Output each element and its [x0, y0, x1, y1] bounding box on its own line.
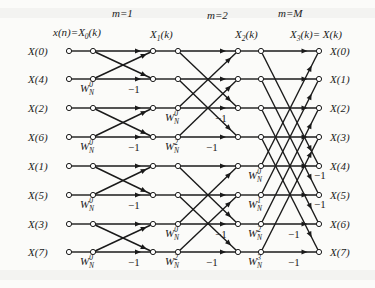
stage-label: m=M	[278, 7, 303, 19]
twiddle-factor: W3N	[248, 253, 263, 270]
output-label: X(7)	[329, 246, 350, 259]
arrow-icon	[220, 134, 226, 139]
node	[150, 163, 155, 168]
minus-one-label: −1	[206, 256, 218, 268]
twiddle-factor: W0N	[80, 253, 95, 270]
twiddle-factor: W0N	[80, 80, 95, 97]
minus-one-label: −1	[128, 199, 140, 211]
node	[66, 48, 71, 53]
column-label: X3(k)= X(k)	[289, 28, 342, 43]
arrow-icon	[220, 48, 226, 53]
arrow-icon	[135, 48, 141, 53]
node	[235, 163, 240, 168]
twiddle-factor: W0N	[80, 196, 95, 213]
node	[258, 76, 263, 81]
node	[258, 134, 263, 139]
node	[150, 134, 155, 139]
output-label: X(0)	[329, 45, 350, 58]
fft-butterfly-diagram: X(0)X(4)X(2)X(6)X(1)X(5)X(3)X(7)X(0)X(1)…	[0, 0, 375, 288]
node	[90, 105, 95, 110]
arrow-icon	[220, 192, 226, 197]
node	[90, 163, 95, 168]
arrow-icon	[302, 48, 308, 53]
twiddle-factor: W2N	[165, 253, 180, 270]
node	[316, 221, 321, 226]
input-label: X(1)	[27, 160, 48, 173]
node	[150, 48, 155, 53]
node	[150, 76, 155, 81]
minus-one-label: −1	[288, 228, 300, 240]
twiddle-factor: W1N	[248, 196, 263, 213]
input-label: X(5)	[27, 189, 48, 202]
node	[258, 48, 263, 53]
node	[66, 134, 71, 139]
arrow-icon	[135, 249, 141, 254]
input-label: X(7)	[27, 246, 48, 259]
arrow-icon	[135, 134, 141, 139]
input-label: X(6)	[27, 131, 48, 144]
input-label: X(3)	[27, 218, 48, 231]
minus-one-label: −1	[288, 256, 300, 268]
node	[235, 48, 240, 53]
node	[316, 76, 321, 81]
node	[150, 105, 155, 110]
output-label: X(1)	[329, 73, 350, 86]
minus-one-label: −1	[128, 83, 140, 95]
node	[316, 249, 321, 254]
output-label: X(5)	[329, 189, 350, 202]
node	[150, 221, 155, 226]
output-label: X(4)	[329, 160, 350, 173]
input-label: X(0)	[27, 45, 48, 58]
stage-label: m=1	[112, 7, 133, 19]
output-label: X(2)	[329, 102, 350, 115]
twiddle-factor: W2N	[165, 138, 180, 155]
arrow-icon	[220, 163, 226, 168]
arrow-icon	[302, 192, 308, 197]
node	[235, 221, 240, 226]
arrow-icon	[135, 105, 141, 110]
arrow-icon	[135, 221, 141, 226]
input-label: X(2)	[27, 102, 48, 115]
arrow-icon	[220, 105, 226, 110]
minus-one-label: −1	[128, 256, 140, 268]
node	[235, 192, 240, 197]
node	[235, 249, 240, 254]
node	[66, 192, 71, 197]
arrow-icon	[302, 134, 308, 139]
node	[150, 192, 155, 197]
node	[66, 105, 71, 110]
node	[316, 48, 321, 53]
node	[90, 221, 95, 226]
node	[175, 48, 180, 53]
node	[66, 249, 71, 254]
node	[316, 105, 321, 110]
arrow-icon	[135, 163, 141, 168]
twiddle-factor: W0N	[165, 225, 180, 242]
node	[66, 76, 71, 81]
node	[175, 76, 180, 81]
minus-one-label: −1	[128, 141, 140, 153]
node	[175, 163, 180, 168]
twiddle-factor: W0N	[80, 138, 95, 155]
node	[316, 134, 321, 139]
arrow-icon	[302, 163, 308, 168]
node	[150, 249, 155, 254]
minus-one-label: −1	[215, 228, 227, 240]
arrow-icon	[302, 249, 308, 254]
column-label: X2(k)	[234, 28, 258, 43]
node	[235, 105, 240, 110]
column-label: x(n)=X0(k)	[52, 26, 101, 41]
diagram-labels: X(0)X(4)X(2)X(6)X(1)X(5)X(3)X(7)X(0)X(1)…	[27, 7, 350, 270]
node	[316, 192, 321, 197]
input-label: X(4)	[27, 73, 48, 86]
stage-label: m=2	[207, 9, 228, 21]
arrow-icon	[135, 192, 141, 197]
node	[316, 163, 321, 168]
node	[258, 105, 263, 110]
node	[90, 48, 95, 53]
output-label: X(6)	[329, 218, 350, 231]
arrow-icon	[135, 76, 141, 81]
arrow-icon	[302, 105, 308, 110]
minus-one-label: −1	[314, 198, 326, 210]
node	[235, 134, 240, 139]
